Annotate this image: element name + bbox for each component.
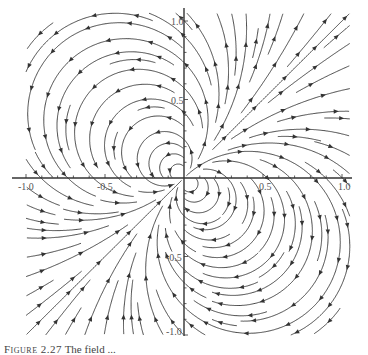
arrowhead-icon bbox=[290, 204, 294, 209]
arrowhead-icon bbox=[43, 134, 47, 139]
arrowhead-icon bbox=[189, 190, 194, 194]
arrowhead-icon bbox=[129, 314, 133, 319]
streamline bbox=[185, 178, 209, 202]
arrowhead-icon bbox=[225, 42, 229, 47]
arrowhead-icon bbox=[114, 51, 119, 55]
streamline bbox=[286, 191, 295, 252]
arrowhead-icon bbox=[254, 39, 258, 44]
arrowhead-icon bbox=[134, 14, 139, 18]
arrowhead-icon bbox=[272, 62, 277, 67]
arrowhead-icon bbox=[317, 215, 321, 220]
arrowhead-icon bbox=[214, 61, 218, 66]
streamline bbox=[110, 60, 156, 65]
streamline bbox=[268, 14, 283, 55]
streamline bbox=[26, 13, 153, 72]
streamline bbox=[122, 116, 184, 178]
arrowhead-icon bbox=[167, 204, 171, 209]
arrowhead-icon bbox=[244, 331, 249, 335]
figure-caption-text: The field ... bbox=[65, 343, 116, 355]
streamline bbox=[160, 154, 184, 178]
arrowhead-icon bbox=[293, 134, 298, 138]
streamline bbox=[114, 132, 118, 160]
streamline bbox=[184, 179, 219, 213]
arrowhead-icon bbox=[300, 221, 304, 226]
arrowhead-icon bbox=[260, 299, 265, 303]
arrowhead-icon bbox=[112, 146, 116, 151]
arrowhead-icon bbox=[312, 65, 317, 70]
arrowhead-icon bbox=[168, 184, 173, 188]
streamline bbox=[175, 231, 196, 252]
arrowhead-icon bbox=[310, 236, 314, 241]
arrowhead-icon bbox=[263, 132, 268, 136]
arrowhead-icon bbox=[155, 130, 160, 134]
arrowhead-icon bbox=[248, 97, 253, 102]
y-tick-neg1: -1.0 bbox=[166, 327, 182, 337]
streamline bbox=[184, 319, 205, 335]
arrowhead-icon bbox=[149, 172, 154, 177]
y-tick-pos1: 1.0 bbox=[171, 17, 184, 27]
arrowhead-icon bbox=[270, 252, 275, 257]
arrowhead-icon bbox=[41, 164, 46, 169]
arrowhead-icon bbox=[225, 242, 230, 246]
arrowhead-icon bbox=[247, 313, 252, 317]
arrowhead-icon bbox=[272, 36, 276, 41]
arrowhead-icon bbox=[174, 196, 178, 201]
arrowhead-icon bbox=[328, 302, 333, 307]
arrowhead-icon bbox=[291, 302, 296, 307]
arrowhead-icon bbox=[291, 116, 296, 120]
streamline bbox=[63, 209, 118, 214]
arrowhead-icon bbox=[156, 56, 161, 60]
arrowhead-icon bbox=[284, 142, 289, 146]
x-tick-pos05: 0.5 bbox=[259, 182, 272, 192]
arrowhead-icon bbox=[202, 222, 207, 226]
arrowhead-icon bbox=[138, 316, 142, 321]
x-tick-neg1: -1.0 bbox=[18, 182, 34, 192]
arrowhead-icon bbox=[233, 275, 238, 279]
arrowhead-icon bbox=[141, 97, 146, 101]
arrowhead-icon bbox=[227, 202, 231, 207]
arrowhead-icon bbox=[337, 258, 341, 263]
arrowhead-icon bbox=[135, 162, 139, 167]
arrowhead-icon bbox=[156, 84, 161, 88]
arrowhead-icon bbox=[238, 150, 243, 154]
arrowhead-icon bbox=[257, 287, 262, 291]
streamline bbox=[105, 99, 194, 187]
arrowhead-icon bbox=[345, 223, 349, 228]
arrowhead-icon bbox=[190, 149, 194, 154]
arrowhead-icon bbox=[244, 42, 248, 47]
streamline bbox=[85, 234, 137, 335]
streamline bbox=[314, 308, 340, 334]
arrowhead-icon bbox=[84, 231, 89, 235]
arrowhead-icon bbox=[319, 295, 324, 300]
arrowhead-icon bbox=[85, 25, 90, 29]
arrowhead-icon bbox=[346, 265, 350, 270]
arrowhead-icon bbox=[234, 56, 238, 61]
arrowhead-icon bbox=[328, 144, 333, 148]
streamline bbox=[315, 201, 322, 261]
arrowhead-icon bbox=[172, 292, 177, 297]
streamline bbox=[184, 178, 198, 192]
arrowhead-icon bbox=[339, 116, 344, 120]
arrowhead-icon bbox=[197, 164, 202, 168]
arrowhead-icon bbox=[278, 91, 283, 96]
streamline bbox=[131, 280, 133, 334]
figure-label: Figure 2.27 bbox=[4, 343, 62, 355]
arrowhead-icon bbox=[217, 321, 222, 325]
arrowhead-icon bbox=[115, 201, 120, 205]
arrowhead-icon bbox=[198, 109, 202, 114]
arrowhead-icon bbox=[64, 119, 68, 124]
arrowhead-icon bbox=[156, 253, 160, 258]
arrowhead-icon bbox=[217, 192, 221, 197]
streamline bbox=[212, 320, 237, 326]
arrowhead-icon bbox=[320, 94, 325, 98]
streamline bbox=[138, 190, 164, 192]
arrowhead-icon bbox=[105, 315, 109, 320]
x-tick-pos1: 1.0 bbox=[338, 182, 351, 192]
streamline bbox=[149, 143, 184, 178]
arrowhead-icon bbox=[166, 116, 171, 120]
arrowhead-icon bbox=[195, 23, 200, 28]
y-tick-pos05: 0.5 bbox=[171, 96, 184, 106]
arrowhead-icon bbox=[57, 106, 61, 111]
arrowhead-icon bbox=[120, 213, 125, 217]
